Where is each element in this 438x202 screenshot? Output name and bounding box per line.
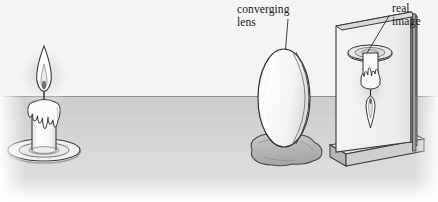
optics-diagram: converging lens real image <box>0 0 438 202</box>
lens-body <box>258 49 310 147</box>
label-real-image: real image <box>392 2 421 27</box>
scene-illustration <box>0 0 438 202</box>
label-converging-lens-line2: lens <box>237 16 290 29</box>
projection-screen-assembly <box>330 12 424 166</box>
label-converging-lens-line1: converging <box>237 3 290 16</box>
label-converging-lens: converging lens <box>237 3 290 28</box>
label-real-image-line2: image <box>392 15 421 28</box>
label-real-image-line1: real <box>392 2 421 15</box>
